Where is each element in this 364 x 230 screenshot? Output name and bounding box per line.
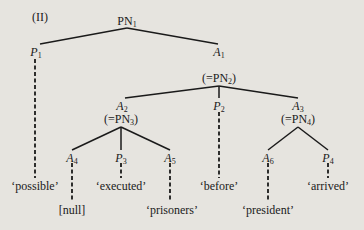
- node-pn3: (=PN3): [104, 113, 138, 129]
- leaf-before: ‘before’: [200, 180, 239, 192]
- node-a4: A4: [66, 152, 77, 168]
- node-p4: P4: [322, 152, 333, 168]
- leaf-prisoners: ‘prisoners’: [146, 204, 198, 216]
- node-pn4: (=PN4): [281, 113, 315, 129]
- leaf-arrived: ‘arrived’: [307, 180, 349, 192]
- node-p3: P3: [115, 152, 126, 168]
- node-p1: P1: [30, 46, 41, 62]
- node-a5: A5: [164, 152, 175, 168]
- leaf-president: ‘president’: [242, 204, 294, 216]
- node-a1: A1: [213, 46, 224, 62]
- leaf-null: [null]: [59, 204, 86, 216]
- leaf-possible: ‘possible’: [11, 180, 58, 192]
- node-a6: A6: [262, 152, 273, 168]
- node-pn1: PN1: [117, 15, 136, 31]
- node-pn2: (=PN2): [202, 72, 236, 88]
- diagram-title: (II): [32, 11, 48, 23]
- node-p2: P2: [213, 100, 224, 116]
- leaf-executed: ‘executed’: [96, 180, 147, 192]
